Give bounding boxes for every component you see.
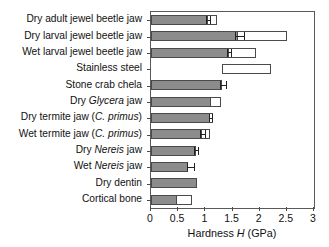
bar-row (151, 61, 314, 77)
bar-range-open (222, 64, 271, 74)
x-axis-tick-label: 1 (201, 212, 207, 225)
x-axis-tick (204, 207, 205, 211)
category-label: Wet larval jewel beetle jaw (22, 45, 142, 59)
hardness-bar-chart: Dry adult jewel beetle jawDry larval jew… (0, 0, 329, 247)
bar-filled (151, 15, 208, 25)
x-axis-tick-label: 2 (256, 212, 262, 225)
x-axis-tick (177, 207, 178, 211)
error-bar-line (187, 167, 194, 168)
x-axis-tick (286, 207, 287, 211)
category-label: Cortical bone (82, 192, 142, 206)
category-label: Dry larval jewel beetle jaw (24, 29, 142, 43)
error-bar-cap-high (226, 81, 227, 89)
category-label: Stainless steel (76, 61, 142, 75)
bar-row (151, 45, 314, 61)
bar-filled (151, 31, 238, 41)
plot-area (150, 11, 315, 209)
x-axis-tick (232, 207, 233, 211)
bar-row (151, 94, 314, 110)
bar-filled (151, 162, 188, 172)
category-label: Stone crab chela (66, 78, 142, 92)
bar-row (151, 143, 314, 159)
category-label: Dry Nereis jaw (76, 143, 142, 157)
x-axis-tick-label: 1.5 (224, 212, 239, 225)
error-bar-cap-high (210, 16, 211, 24)
plot-inner (151, 12, 314, 208)
bar-row (151, 110, 314, 126)
bar-filled (151, 48, 229, 58)
error-bar-line (235, 36, 244, 37)
bar-row (151, 126, 314, 142)
x-axis-tick (150, 207, 151, 211)
category-label: Wet termite jaw (C. primus) (19, 127, 142, 141)
x-axis-tick-label: 0.5 (170, 212, 185, 225)
x-axis-tick-label: 3 (310, 212, 316, 225)
error-bar-cap-low (209, 114, 210, 122)
x-axis-tick (259, 207, 260, 211)
bar-filled (151, 178, 197, 188)
error-bar-cap-high (244, 32, 245, 40)
bar-filled (151, 80, 222, 90)
bar-filled (151, 195, 177, 205)
error-bar-cap-low (235, 32, 236, 40)
error-bar-cap-low (220, 81, 221, 89)
error-bar-cap-high (212, 114, 213, 122)
error-bar-cap-low (187, 163, 188, 171)
bar-row (151, 28, 314, 44)
bar-filled (151, 146, 196, 156)
x-axis-tick-labels: 00.511.522.53 (0, 212, 329, 226)
x-axis-tick (313, 207, 314, 211)
category-label: Dry Glycera jaw (70, 94, 142, 108)
category-label: Wet Nereis jaw (74, 159, 142, 173)
bar-filled (151, 113, 210, 123)
bar-row (151, 159, 314, 175)
bar-filled (151, 129, 202, 139)
error-bar-cap-high (198, 147, 199, 155)
x-axis-tick-label: 2.5 (279, 212, 294, 225)
category-label: Dry adult jewel beetle jaw (26, 12, 142, 26)
error-bar-cap-high (205, 130, 206, 138)
error-bar-cap-high (194, 163, 195, 171)
x-axis-title: Hardness H (GPa) (150, 227, 314, 239)
category-label: Dry termite jaw (C. primus) (21, 110, 142, 124)
bar-row (151, 175, 314, 191)
category-label: Dry dentin (96, 176, 142, 190)
bar-row (151, 77, 314, 93)
bar-row (151, 192, 314, 208)
error-bar-cap-low (200, 130, 201, 138)
error-bar-cap-low (194, 147, 195, 155)
error-bar-cap-low (206, 16, 207, 24)
category-axis-labels: Dry adult jewel beetle jawDry larval jew… (0, 11, 146, 207)
error-bar-cap-low (227, 49, 228, 57)
bar-filled (151, 97, 211, 107)
error-bar-cap-high (231, 49, 232, 57)
x-axis-tick-label: 0 (147, 212, 153, 225)
bar-row (151, 12, 314, 28)
